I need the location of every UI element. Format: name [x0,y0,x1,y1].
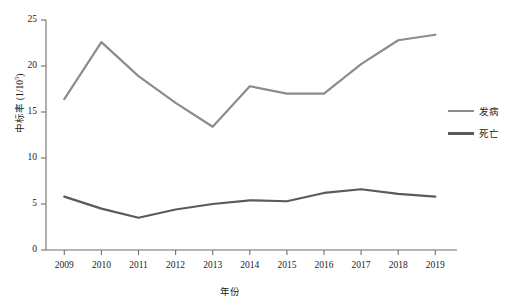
legend-swatch-mortality [448,132,474,135]
x-tick-label-2017: 2017 [341,261,381,271]
legend-label-mortality: 死亡 [479,126,499,140]
y-axis-title: 中标率 (1/105) [12,48,26,158]
series-line-incidence [64,35,435,127]
x-axis-ticks [64,250,435,255]
y-axis-ticks [41,20,46,250]
x-tick-label-2010: 2010 [81,261,121,271]
x-tick-label-2011: 2011 [119,261,159,271]
y-axis-title-close: ) [15,73,25,76]
line-chart: 0 5 10 15 20 25 2009 2010 2011 2012 2013… [0,0,515,306]
x-tick-label-2016: 2016 [304,261,344,271]
x-tick-label-2018: 2018 [378,261,418,271]
x-tick-label-2014: 2014 [230,261,270,271]
chart-legend: 发病 死亡 [448,100,514,144]
y-tick-label-5: 5 [16,199,37,209]
legend-item-mortality: 死亡 [448,122,514,144]
legend-item-incidence: 发病 [448,100,514,122]
y-tick-label-25: 25 [16,15,37,25]
legend-label-incidence: 发病 [479,104,499,118]
y-tick-label-0: 0 [16,245,37,255]
legend-swatch-incidence [448,110,474,112]
y-axis-title-exponent: 5 [13,77,20,80]
x-tick-label-2013: 2013 [193,261,233,271]
x-tick-label-2019: 2019 [415,261,455,271]
y-axis-title-text: 中标率 (1/10 [15,80,25,132]
x-tick-label-2015: 2015 [267,261,307,271]
x-axis-title: 年份 [0,284,460,298]
x-tick-label-2012: 2012 [156,261,196,271]
series-line-mortality [64,189,435,218]
x-tick-label-2009: 2009 [44,261,84,271]
